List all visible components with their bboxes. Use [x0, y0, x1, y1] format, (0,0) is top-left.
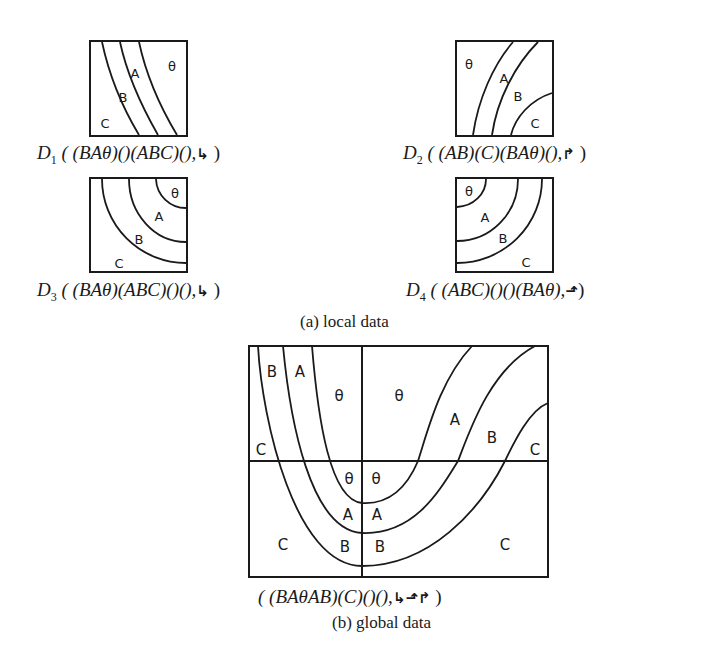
d3-close-paren: ) — [209, 279, 220, 300]
global-region-theta-bottomright: θ — [371, 470, 380, 488]
d2-panel: θ A B C — [456, 41, 553, 136]
combined-arrows-icon: ↳⬏↱ — [393, 589, 431, 607]
d2-region-theta: θ — [465, 57, 473, 72]
d1-region-a: A — [131, 66, 140, 81]
d1-caption: D1 ( (BAθ)()(ABC)(),↳ ) — [37, 142, 220, 168]
global-tuple: ( (BAθAB)(C)()(), — [258, 586, 393, 607]
d4-region-a: A — [481, 210, 490, 225]
global-region-c-topleft: C — [256, 441, 266, 459]
d3-tuple: ( (BAθ)(ABC)()(), — [61, 279, 196, 300]
d1-close-paren: ) — [209, 142, 220, 163]
global-region-b-bottomright: B — [375, 538, 385, 556]
d1-region-b: B — [119, 90, 128, 105]
d4-caption: D4 ( (ABC)()()(BAθ),⬏) — [406, 279, 584, 305]
d3-label: D — [37, 279, 51, 300]
d2-region-c: C — [530, 116, 539, 131]
global-close-paren: ) — [431, 586, 442, 607]
d3-region-b: B — [135, 232, 144, 247]
global-region-b-topright: B — [487, 429, 497, 447]
global-region-theta-topright: θ — [394, 387, 403, 405]
d3-region-a: A — [155, 209, 164, 224]
d1-region-theta: θ — [168, 59, 176, 74]
global-curve-a-b — [283, 346, 535, 533]
d4-label: D — [406, 279, 420, 300]
d2-index: 2 — [417, 153, 423, 167]
d3-caption: D3 ( (BAθ)(ABC)()(),↳ ) — [37, 279, 220, 305]
global-region-c-bottomleft: C — [278, 536, 288, 554]
global-caption: ( (BAθAB)(C)()(),↳⬏↱ ) — [258, 586, 442, 608]
global-region-c-topright: C — [530, 441, 540, 459]
d1-curve-atheta — [139, 42, 177, 135]
global-region-theta-bottomleft: θ — [344, 470, 353, 488]
d1-panel: θ A B C — [90, 41, 187, 136]
d4-tuple: ( (ABC)()()(BAθ), — [430, 279, 565, 300]
d1-region-c: C — [100, 116, 109, 131]
d4-index: 4 — [420, 290, 426, 304]
global-panel: B A θ θ A B C C θ θ A A B B C C — [249, 346, 548, 577]
d3-panel: θ A B C — [90, 178, 187, 272]
down-right-arrow-icon: ↳ — [196, 282, 209, 300]
d3-index: 3 — [51, 290, 57, 304]
global-region-theta-topleft: θ — [334, 387, 343, 405]
d1-curve-ba — [120, 42, 158, 135]
d3-region-theta: θ — [171, 186, 179, 201]
d4-region-b: B — [499, 231, 508, 246]
d2-tuple: ( (AB)(C)(BAθ)(), — [427, 142, 562, 163]
right-up-arrow-icon: ⬏ — [565, 282, 578, 300]
up-right-arrow-icon: ↱ — [562, 145, 575, 163]
d2-region-a: A — [500, 71, 509, 86]
global-region-a-bottomright: A — [372, 506, 383, 524]
d1-tuple: ( (BAθ)()(ABC)(), — [61, 142, 196, 163]
local-data-subcaption: (a) local data — [300, 312, 389, 332]
d2-close-paren: ) — [575, 142, 586, 163]
d2-region-b: B — [514, 89, 523, 104]
d4-close-paren: ) — [578, 279, 584, 300]
d2-caption: D2 ( (AB)(C)(BAθ)(),↱ ) — [403, 142, 586, 168]
global-region-a-bottomleft: A — [343, 506, 354, 524]
global-region-b-bottomleft: B — [340, 538, 350, 556]
d4-region-c: C — [521, 255, 530, 270]
global-region-b-topleft: B — [267, 363, 277, 381]
figure-canvas: θ A B C θ A B C θ A B C θ A B C — [0, 0, 710, 669]
d4-panel: θ A B C — [456, 178, 553, 272]
global-region-c-bottomright: C — [500, 536, 510, 554]
global-region-a-topright: A — [450, 411, 461, 429]
d2-label: D — [403, 142, 417, 163]
d1-index: 1 — [51, 153, 57, 167]
d3-region-c: C — [114, 256, 123, 271]
global-region-a-topleft: A — [295, 363, 306, 381]
down-right-arrow-icon: ↳ — [196, 145, 209, 163]
global-data-subcaption: (b) global data — [332, 613, 431, 633]
global-curve-theta-a — [312, 346, 472, 503]
d1-label: D — [37, 142, 51, 163]
d4-region-theta: θ — [465, 184, 473, 199]
